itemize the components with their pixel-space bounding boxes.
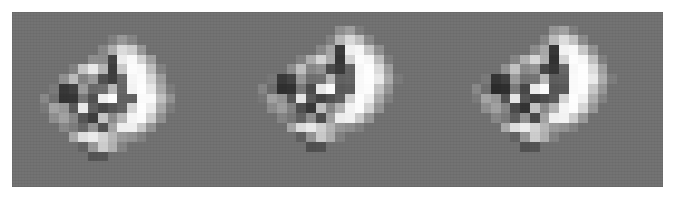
heatmap-cell: [588, 152, 598, 162]
heatmap-cell: [49, 171, 59, 181]
heatmap-cell: [491, 45, 501, 55]
heatmap-cell: [108, 152, 118, 162]
heatmap-cell: [326, 74, 336, 84]
heatmap-cell: [598, 26, 608, 36]
heatmap-cell: [462, 94, 472, 104]
heatmap-cell: [598, 94, 608, 104]
heatmap-cell: [393, 113, 403, 123]
heatmap-cell: [384, 35, 394, 45]
heatmap-cell: [393, 161, 403, 171]
heatmap-cell: [530, 26, 540, 36]
heatmap-cell: [296, 113, 306, 123]
heatmap-cell: [30, 152, 40, 162]
heatmap-cell: [374, 142, 384, 152]
heatmap-cell: [345, 103, 355, 113]
heatmap-cell: [335, 171, 345, 181]
heatmap-cell: [510, 94, 520, 104]
heatmap-cell: [598, 45, 608, 55]
heatmap-cell: [549, 103, 559, 113]
heatmap-cell: [258, 55, 268, 65]
heatmap-cell: [49, 45, 59, 55]
heatmap-cell: [40, 152, 50, 162]
heatmap-cell: [166, 26, 176, 36]
heatmap-cell: [306, 94, 316, 104]
heatmap-cell: [40, 142, 50, 152]
heatmap-cell: [156, 161, 166, 171]
heatmap-cell: [510, 132, 520, 142]
heatmap-cell: [78, 132, 88, 142]
heatmap-cell: [30, 161, 40, 171]
heatmap-cell: [306, 103, 316, 113]
heatmap-cell: [156, 16, 166, 26]
heatmap-cell: [384, 64, 394, 74]
heatmap-cell: [40, 74, 50, 84]
heatmap-cell: [146, 152, 156, 162]
heatmap-cell: [258, 132, 268, 142]
heatmap-cell: [185, 64, 195, 74]
heatmap-cell: [607, 74, 617, 84]
heatmap-cell: [384, 132, 394, 142]
heatmap-cell: [287, 64, 297, 74]
heatmap-cell: [175, 74, 185, 84]
heatmap-cell: [549, 94, 559, 104]
heatmap-cell: [40, 94, 50, 104]
heatmap-cell: [569, 94, 579, 104]
heatmap-cell: [374, 161, 384, 171]
heatmap-cell: [355, 103, 365, 113]
heatmap-cell: [355, 142, 365, 152]
heatmap-cell: [462, 64, 472, 74]
heatmap-cell: [559, 55, 569, 65]
heatmap-cell: [549, 84, 559, 94]
heatmap-cell: [59, 45, 69, 55]
heatmap-cell: [491, 16, 501, 26]
heatmap-cell: [598, 74, 608, 84]
heatmap-cell: [277, 161, 287, 171]
heatmap-cell: [258, 152, 268, 162]
heatmap-cell: [306, 152, 316, 162]
heatmap-cell: [588, 142, 598, 152]
heatmap-cell: [393, 35, 403, 45]
heatmap-cell: [520, 113, 530, 123]
heatmap-cell: [540, 132, 550, 142]
heatmap-cell: [108, 74, 118, 84]
heatmap-cell: [30, 55, 40, 65]
heatmap-cell: [296, 142, 306, 152]
heatmap-cell: [78, 94, 88, 104]
heatmap-cell: [78, 45, 88, 55]
heatmap-cell: [607, 113, 617, 123]
heatmap-cell: [569, 132, 579, 142]
heatmap-cell: [146, 26, 156, 36]
heatmap-cell: [78, 16, 88, 26]
heatmap-cell: [306, 142, 316, 152]
heatmap-cell: [108, 84, 118, 94]
heatmap-cell: [146, 45, 156, 55]
heatmap-cell: [175, 94, 185, 104]
heatmap-cell: [384, 142, 394, 152]
heatmap-cell: [248, 16, 258, 26]
heatmap-cell: [393, 123, 403, 133]
heatmap-cell: [258, 26, 268, 36]
heatmap-cell: [384, 16, 394, 26]
heatmap-cell: [491, 161, 501, 171]
heatmap-cell: [374, 55, 384, 65]
heatmap-cell: [345, 152, 355, 162]
heatmap-cell: [166, 152, 176, 162]
heatmap-cell: [491, 74, 501, 84]
heatmap-cell: [617, 26, 627, 36]
heatmap-cell: [59, 35, 69, 45]
heatmap-cell: [355, 132, 365, 142]
heatmap-cell: [108, 142, 118, 152]
heatmap-cell: [117, 16, 127, 26]
heatmap-cell: [98, 142, 108, 152]
heatmap-cell: [588, 35, 598, 45]
heatmap-cell: [326, 16, 336, 26]
heatmap-cell: [607, 55, 617, 65]
heatmap-cell: [393, 142, 403, 152]
heatmap-cell: [617, 94, 627, 104]
heatmap-cell: [306, 55, 316, 65]
heatmap-cell: [296, 94, 306, 104]
heatmap-cell: [510, 142, 520, 152]
heatmap-cell: [510, 64, 520, 74]
heatmap-cell: [481, 35, 491, 45]
heatmap-cell: [166, 84, 176, 94]
